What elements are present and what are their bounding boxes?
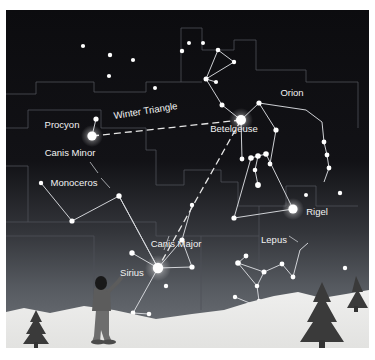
sky-canvas: Procyon Winter Triangle Betelgeuse Orion… [6, 10, 369, 348]
star-chart-figure: Procyon Winter Triangle Betelgeuse Orion… [0, 0, 375, 360]
label-rigel: Rigel [306, 206, 328, 217]
named-star-rigel [282, 198, 304, 220]
label-orion: Orion [280, 87, 303, 98]
named-star-procyon [81, 125, 103, 147]
label-betelgeuse: Betelgeuse [210, 123, 258, 134]
named-star-sirius [145, 255, 171, 281]
label-canis-major: Canis Major [151, 238, 202, 249]
label-sirius: Sirius [120, 267, 144, 278]
label-lepus: Lepus [261, 234, 287, 245]
label-canis-minor: Canis Minor [45, 147, 96, 158]
sky-panel: Procyon Winter Triangle Betelgeuse Orion… [6, 10, 369, 348]
label-procyon: Procyon [45, 119, 80, 130]
label-monoceros: Monoceros [51, 177, 98, 188]
